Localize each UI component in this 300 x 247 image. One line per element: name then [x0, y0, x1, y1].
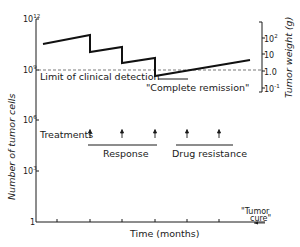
y-tick-1e9: 109	[23, 64, 37, 75]
detection-limit-label: Limit of clinical detection	[40, 71, 159, 82]
complete-remission-label: "Complete remission"	[146, 82, 249, 93]
y2-tick-1e2: 102	[264, 33, 278, 44]
y2-tick-1e-1: 10-1	[264, 83, 280, 94]
treatment-arrows	[89, 130, 221, 139]
y-tick-1e6: 106	[23, 114, 37, 125]
y-tick-1: 1	[30, 218, 35, 227]
treatments-label: Treatments	[39, 129, 93, 140]
y2-axis-title: Tumor weight (g)	[283, 17, 294, 98]
tumor-cure-label-2: cure"	[250, 214, 271, 223]
y2-tick-1: 1.0	[264, 68, 277, 77]
treatment-arrow-icon	[218, 130, 221, 139]
drug-resistance-label: Drug resistance	[172, 148, 247, 159]
x-axis-title: Time (months)	[129, 228, 199, 239]
treatment-arrow-icon	[121, 130, 124, 139]
treatment-arrow-icon	[154, 130, 157, 139]
y-axis-title: Number of tumor cells	[6, 94, 17, 200]
y-tick-1e12: 1012	[23, 13, 40, 24]
y2-tick-10: 10	[264, 51, 274, 60]
y-tick-1e3: 103	[23, 165, 37, 176]
tumor-kinetics-diagram: 1012 109 106 103 1 Number of tumor cells…	[0, 0, 300, 247]
treatment-arrow-icon	[186, 130, 189, 139]
response-label: Response	[103, 148, 149, 159]
